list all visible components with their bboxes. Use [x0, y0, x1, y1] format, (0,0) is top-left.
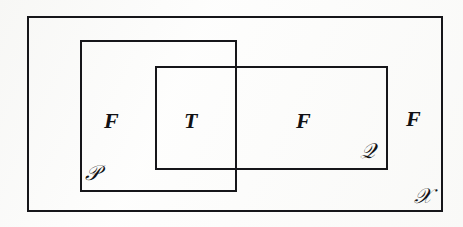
- set-p-label: 𝒫: [85, 163, 100, 184]
- region-label-q-only: F: [296, 110, 311, 132]
- universe-label: 𝒳: [414, 186, 432, 207]
- region-label-outside-both: F: [406, 108, 421, 130]
- set-q-label: 𝒬: [360, 141, 375, 162]
- set-diagram-figure: F T F F 𝒫 𝒬 𝒳: [0, 0, 463, 227]
- region-label-p-only: F: [104, 110, 119, 132]
- region-label-intersection: T: [184, 110, 197, 132]
